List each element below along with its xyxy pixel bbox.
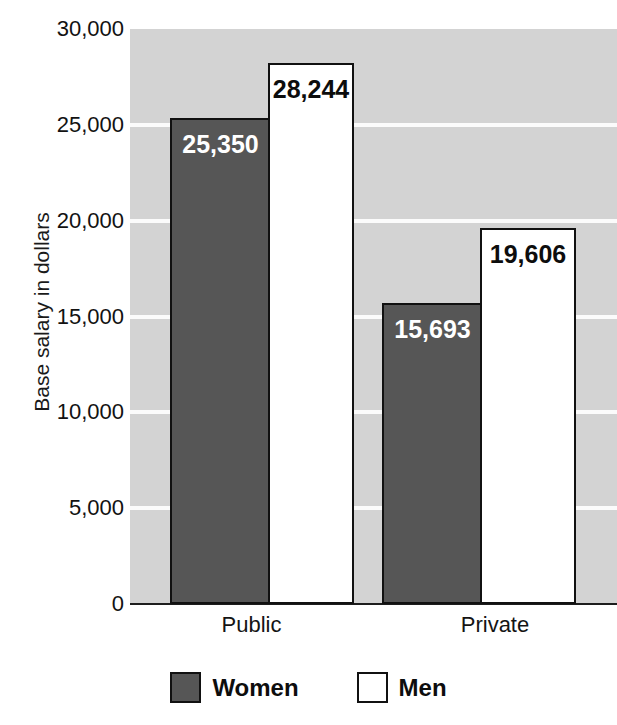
y-tick-label-25000: 25,000 xyxy=(6,112,124,138)
bar-chart-figure: Base salary in dollars 30,00025,00020,00… xyxy=(0,0,617,725)
bar-public-men[interactable]: 28,244 xyxy=(268,63,354,604)
y-tick-label-30000: 30,000 xyxy=(6,16,124,42)
bar-value-label: 25,350 xyxy=(172,130,269,159)
legend-item-women[interactable]: Women xyxy=(170,672,298,703)
y-tick-label-0: 0 xyxy=(6,591,124,617)
bar-private-women[interactable]: 15,693 xyxy=(382,303,483,604)
y-axis-tick-labels: 30,00025,00020,00015,00010,0005,0000 xyxy=(0,0,124,725)
bar-value-label: 19,606 xyxy=(482,240,574,269)
x-axis-category-private: Private xyxy=(373,612,617,638)
x-axis-category-public: Public xyxy=(130,612,373,638)
y-tick-label-20000: 20,000 xyxy=(6,208,124,234)
bar-public-women[interactable]: 25,350 xyxy=(170,118,271,604)
plot-area: 25,35028,24415,69319,606 xyxy=(130,29,617,604)
legend-label-men: Men xyxy=(399,674,447,702)
women-swatch-icon xyxy=(170,672,201,703)
bar-value-label: 15,693 xyxy=(384,315,481,344)
men-swatch-icon xyxy=(357,672,388,703)
y-tick-label-5000: 5,000 xyxy=(6,495,124,521)
y-tick-label-10000: 10,000 xyxy=(6,399,124,425)
legend-label-women: Women xyxy=(212,674,298,702)
bar-value-label: 28,244 xyxy=(270,75,352,104)
legend: Women Men xyxy=(0,672,617,703)
bar-private-men[interactable]: 19,606 xyxy=(480,228,576,604)
legend-item-men[interactable]: Men xyxy=(357,672,447,703)
y-tick-label-15000: 15,000 xyxy=(6,304,124,330)
